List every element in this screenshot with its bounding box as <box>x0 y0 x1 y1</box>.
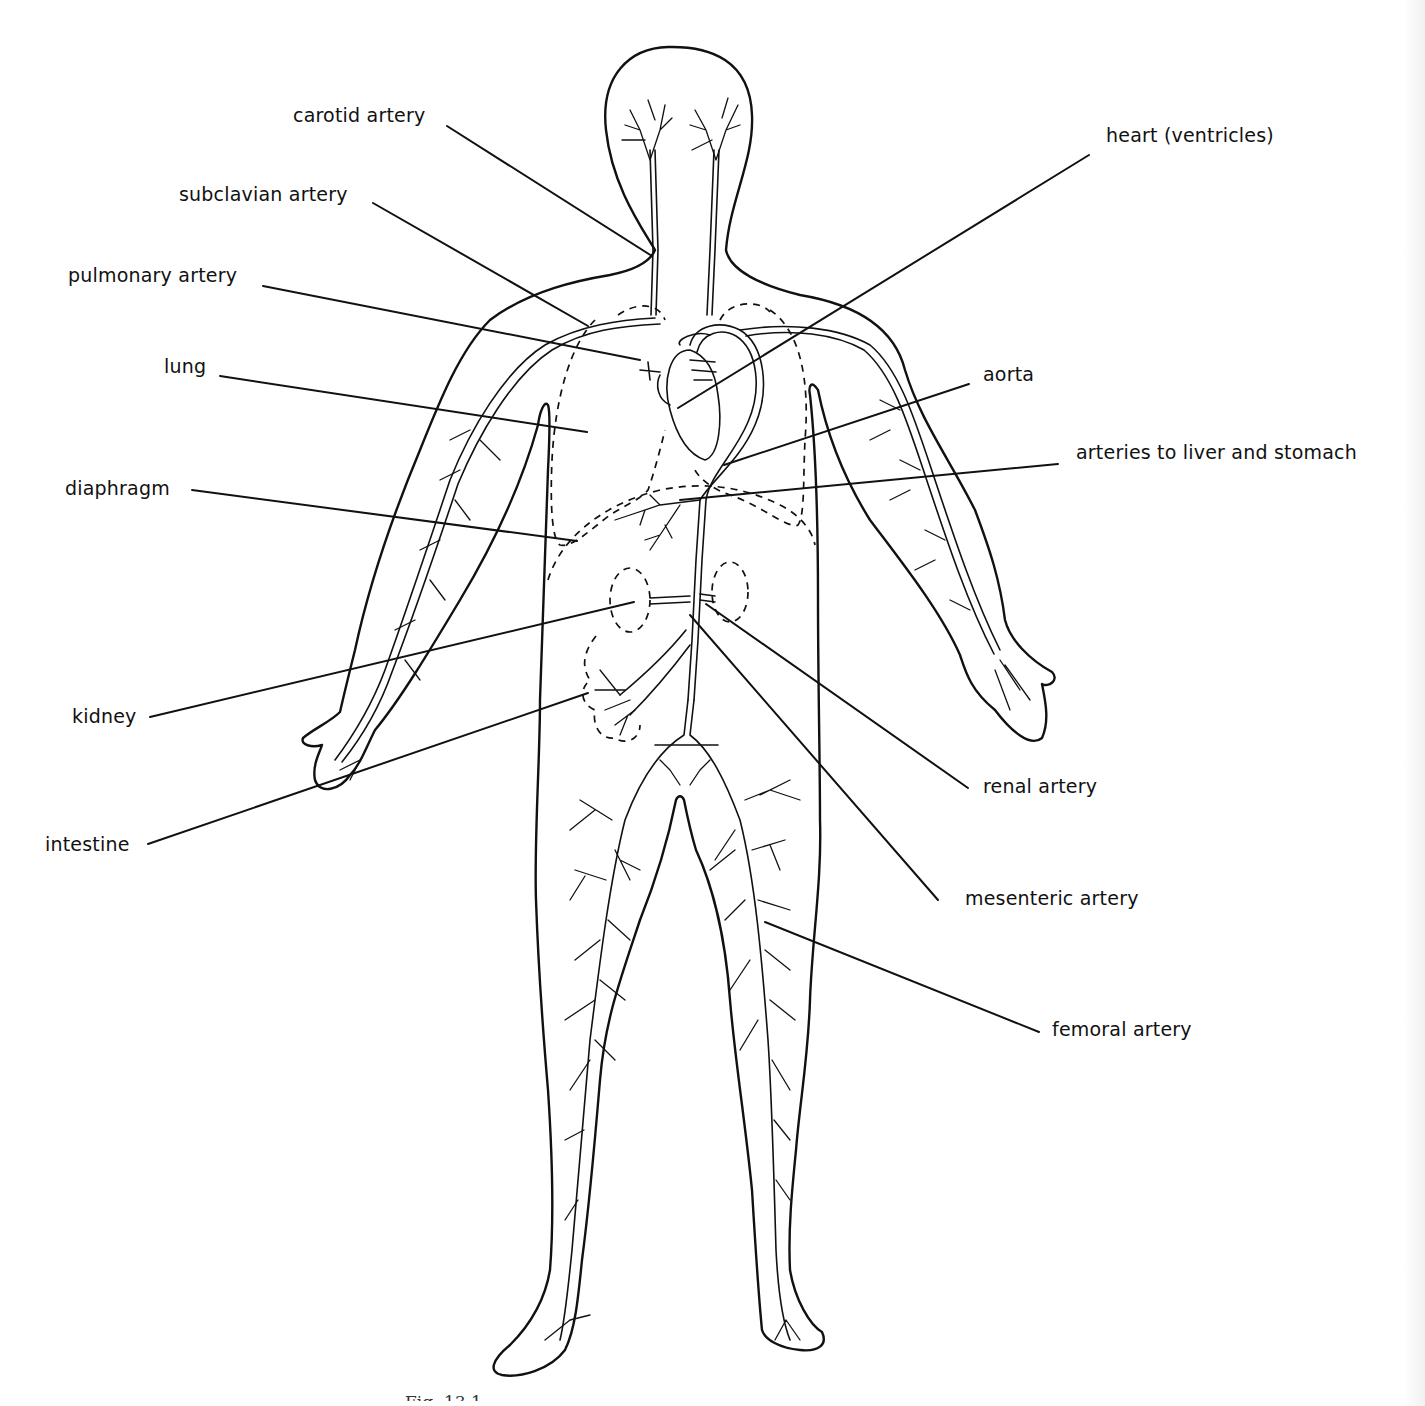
label-pulmonary-artery: pulmonary artery <box>68 266 237 285</box>
label-kidney: kidney <box>72 707 137 726</box>
label-diaphragm: diaphragm <box>65 479 170 498</box>
left-kidney-outline <box>610 568 650 632</box>
leader-lung <box>220 376 587 432</box>
circulation-diagram: carotid artery subclavian artery pulmona… <box>0 0 1425 1406</box>
leader-aorta <box>724 384 969 465</box>
leader-subclavian <box>373 203 588 326</box>
label-intestine: intestine <box>45 835 130 854</box>
label-carotid-artery: carotid artery <box>293 106 425 125</box>
label-mesenteric-artery: mesenteric artery <box>965 889 1139 908</box>
leader-kidney <box>150 602 634 717</box>
label-arteries-liver-stomach: arteries to liver and stomach <box>1076 443 1357 462</box>
label-subclavian-artery: subclavian artery <box>179 185 348 204</box>
label-renal-artery: renal artery <box>983 777 1097 796</box>
body-illustration <box>0 0 1425 1406</box>
leader-renal <box>706 604 968 788</box>
organ-outlines <box>548 304 815 741</box>
leader-femoral <box>765 922 1039 1032</box>
label-aorta: aorta <box>983 365 1034 384</box>
heart-drawing <box>640 334 720 460</box>
leader-lines <box>148 126 1089 1032</box>
leader-liver-stomach <box>680 464 1058 500</box>
capillary-branches <box>340 98 1030 1340</box>
label-heart-ventricles: heart (ventricles) <box>1106 126 1274 145</box>
label-femoral-artery: femoral artery <box>1052 1020 1192 1039</box>
leader-mesenteric <box>690 615 938 900</box>
leader-intestine <box>148 693 588 844</box>
intestine-outline <box>583 636 640 741</box>
leader-diaphragm <box>192 490 577 541</box>
label-lung: lung <box>164 357 206 376</box>
page-edge-shadow <box>1403 0 1425 1406</box>
upper-chest-outline <box>618 304 770 320</box>
